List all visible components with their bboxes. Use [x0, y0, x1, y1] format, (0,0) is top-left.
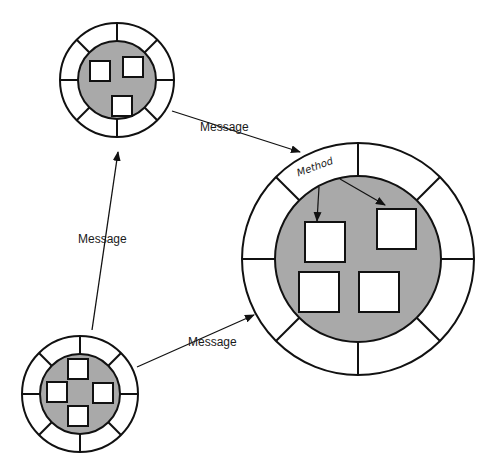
object-message-diagram: MessageMessageMessage Method	[0, 0, 495, 471]
message-label: Message	[78, 232, 127, 246]
message-arrow: Message	[78, 152, 127, 330]
object-data-box	[377, 209, 416, 249]
object-data-box	[305, 222, 345, 262]
message-label: Message	[200, 120, 249, 134]
object-data-box	[68, 406, 88, 426]
object-data-box	[90, 61, 110, 81]
object-core	[275, 176, 441, 342]
object-data-box	[93, 383, 113, 403]
object-data-box	[112, 96, 132, 116]
object-data-box	[299, 272, 339, 312]
object-data-box	[68, 359, 88, 379]
object-right-large	[242, 143, 474, 375]
object-top-left	[60, 23, 174, 137]
message-label: Message	[188, 335, 237, 349]
message-arrow: Message	[137, 315, 254, 367]
message-arrow: Message	[172, 111, 300, 152]
object-bottom-left	[22, 336, 138, 452]
object-data-box	[123, 57, 143, 77]
object-data-box	[359, 272, 399, 312]
object-data-box	[47, 382, 67, 402]
